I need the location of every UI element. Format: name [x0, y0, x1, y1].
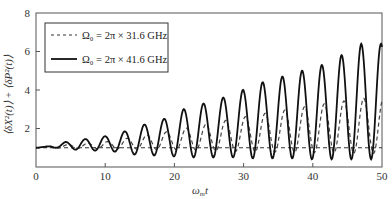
- x-tick-50: 50: [377, 170, 389, 182]
- y-tick-4: 4: [25, 84, 31, 96]
- legend: Ω₀ = 2π × 31.6 GHz Ω₀ = 2π × 41.6 GHz: [45, 23, 168, 72]
- x-axis-label: ωmt: [192, 184, 209, 198]
- y-axis-label: ⟨δX²(t)⟩ + ⟨δP²(t)⟩: [2, 54, 15, 135]
- y-axis: [36, 52, 40, 129]
- y-tick-6: 6: [25, 45, 31, 57]
- x-tick-labels: 0 10 20 30 40 50: [33, 170, 388, 182]
- x-tick-30: 30: [238, 170, 250, 182]
- x-tick-40: 40: [307, 170, 319, 182]
- y-tick-labels: 2 4 6 8: [25, 7, 31, 134]
- y-tick-2: 2: [25, 122, 31, 134]
- chart: 2 4 6 8 0 10 20 30 40 50 ωmt ⟨δX²(t)⟩ + …: [0, 0, 392, 199]
- x-tick-20: 20: [169, 170, 181, 182]
- x-tick-0: 0: [33, 170, 39, 182]
- x-tick-10: 10: [100, 170, 112, 182]
- y-tick-8: 8: [25, 7, 31, 19]
- legend-label-31-6: Ω₀ = 2π × 31.6 GHz: [82, 30, 168, 41]
- x-axis: [105, 163, 313, 167]
- legend-label-41-6: Ω₀ = 2π × 41.6 GHz: [82, 54, 168, 65]
